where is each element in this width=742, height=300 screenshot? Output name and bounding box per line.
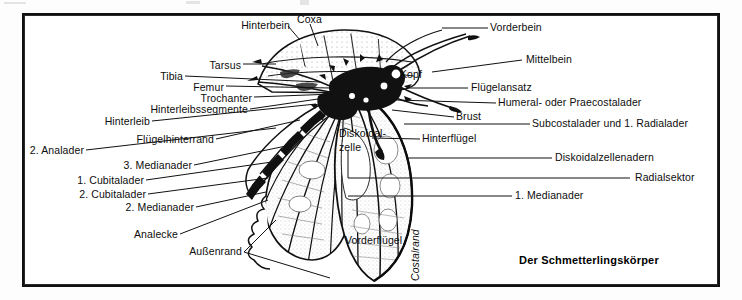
scan-page: Hinterbein Coxa Tarsus Tibia Femur Troch… [0, 0, 742, 300]
label-1-medianader: 1. Medianader [515, 190, 583, 201]
scan-speckle [300, 0, 309, 5]
label-hinterbein: Hinterbein [241, 20, 290, 31]
label-diskoidalzelle-line1: Diskoidal- [339, 128, 386, 139]
label-vorderfluegel: Vorderflügel [345, 235, 402, 246]
label-costalrand: Costalrand [410, 229, 421, 281]
label-aussenrand: Außenrand [189, 246, 242, 257]
scan-speckle [186, 1, 200, 4]
label-analecke: Analecke [134, 229, 178, 240]
label-hinterfluegel: Hinterflügel [422, 133, 476, 144]
label-fluegelansatz: Flügelansatz [471, 82, 532, 93]
label-humeral-praecostalader: Humeral- oder Praecostalader [498, 97, 641, 108]
label-brust: Brust [456, 111, 481, 122]
label-2-medianader: 2. Medianader [126, 202, 194, 213]
label-1-cubitalader: 1. Cubitalader [77, 175, 144, 186]
label-3-medianader: 3. Medianader [124, 160, 192, 171]
label-subcostalader-radialader: Subcostalader und 1. Radialader [532, 118, 688, 129]
label-2-cubitalader: 2. Cubitalader [79, 189, 146, 200]
label-tibia: Tibia [160, 71, 183, 82]
label-coxa: Coxa [297, 14, 322, 25]
figure-title: Der Schmetterlingskörper [519, 254, 659, 266]
label-fluegelhinterrand: Flügelhinterrand [137, 134, 214, 145]
label-tarsus: Tarsus [209, 60, 241, 71]
scan-speckle [4, 2, 26, 4]
label-2-analader: 2. Analader [30, 145, 84, 156]
label-hinterleibssegmente: Hinterleibssegmente [150, 104, 248, 115]
label-diskoidalzellenadern: Diskoidalzellenadern [555, 152, 654, 163]
label-vorderbein: Vorderbein [490, 22, 542, 33]
label-diskoidalzelle-line2: zelle [339, 142, 361, 153]
label-kopf: Kopf [400, 69, 422, 80]
label-radialsektor: Radialsektor [635, 172, 695, 183]
label-hinterleib: Hinterleib [105, 116, 150, 127]
label-mittelbein: Mittelbein [526, 54, 572, 65]
